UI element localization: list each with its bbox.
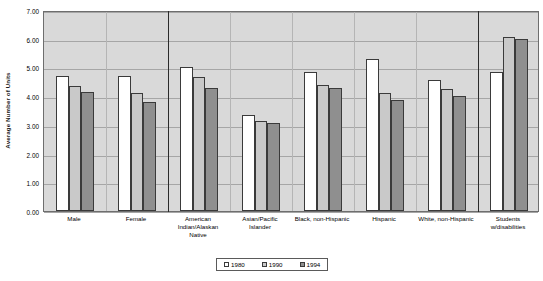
x-axis-category-label: Asian/PacificIslander [229, 215, 291, 231]
section-divider [478, 11, 479, 212]
y-axis-tick-label: 6.00 [27, 36, 39, 43]
bar [304, 72, 317, 211]
legend: 198019901994 [216, 258, 328, 271]
bar [118, 76, 131, 211]
bar [242, 115, 255, 211]
bar [143, 102, 156, 211]
bar [69, 86, 82, 211]
gridline [44, 212, 538, 213]
bar-group [478, 12, 540, 211]
x-axis-category-label-line: Islander [229, 223, 291, 231]
y-axis-tick-label: 7.00 [27, 8, 39, 15]
bar-group [168, 12, 230, 211]
bar [267, 123, 280, 211]
x-axis-category-label-line: White, non-Hispanic [415, 215, 477, 223]
x-axis-category-label: Male [43, 215, 105, 223]
bar [515, 39, 528, 211]
bar [180, 67, 193, 211]
legend-item: 1990 [262, 261, 283, 268]
legend-swatch-icon [262, 262, 267, 267]
x-axis-category-label-line: Asian/Pacific [229, 215, 291, 223]
x-axis-category-label: Studentsw/disabilities [477, 215, 539, 231]
bar [428, 80, 441, 211]
y-axis-tick-label: 5.00 [27, 65, 39, 72]
x-axis-category-label-line: Male [43, 215, 105, 223]
bar-chart: Average Number of Units 0.001.002.003.00… [0, 0, 543, 281]
legend-item-label: 1994 [307, 261, 321, 268]
section-divider [168, 11, 169, 212]
bar [366, 59, 379, 211]
x-axis-category-label-line: American [167, 215, 229, 223]
bar [379, 93, 392, 211]
y-axis-tick-label: 0.00 [27, 209, 39, 216]
y-axis-title-text: Average Number of Units [4, 72, 11, 148]
x-axis-category-label-line: Native [167, 231, 229, 239]
x-axis-category-label: Black, non-Hispanic [291, 215, 353, 223]
y-axis-tick-labels: 0.001.002.003.004.005.006.007.00 [14, 11, 42, 212]
bar [453, 96, 466, 211]
x-axis-category-label-line: Female [105, 215, 167, 223]
bar-group [416, 12, 478, 211]
bar [131, 93, 144, 211]
bar [490, 72, 503, 211]
y-axis-title: Average Number of Units [0, 0, 14, 220]
x-axis-category-label: AmericanIndian/AlaskanNative [167, 215, 229, 240]
x-axis-category-labels: MaleFemaleAmericanIndian/AlaskanNativeAs… [43, 215, 539, 260]
bar [81, 92, 94, 211]
bar [205, 88, 218, 211]
bar [56, 76, 69, 211]
x-axis-category-label: White, non-Hispanic [415, 215, 477, 223]
y-axis-tick-label: 2.00 [27, 151, 39, 158]
bar-group [230, 12, 292, 211]
x-axis-category-label: Hispanic [353, 215, 415, 223]
x-axis-category-label: Female [105, 215, 167, 223]
x-axis-category-label-line: Students [477, 215, 539, 223]
plot-area [43, 11, 539, 212]
legend-swatch-icon [300, 262, 305, 267]
legend-item: 1994 [300, 261, 321, 268]
y-axis-tick-label: 3.00 [27, 122, 39, 129]
legend-item-label: 1990 [269, 261, 283, 268]
bar [317, 85, 330, 211]
legend-item-label: 1980 [231, 261, 245, 268]
bar-group [106, 12, 168, 211]
x-axis-category-label-line: w/disabilities [477, 223, 539, 231]
legend-item: 1980 [224, 261, 245, 268]
y-axis-tick-label: 4.00 [27, 94, 39, 101]
bar-group [292, 12, 354, 211]
bar [329, 88, 342, 211]
x-axis-category-label-line: Hispanic [353, 215, 415, 223]
bar [255, 121, 268, 211]
bar [503, 37, 516, 211]
bar [441, 89, 454, 211]
legend-swatch-icon [224, 262, 229, 267]
x-axis-category-label-line: Black, non-Hispanic [291, 215, 353, 223]
bar [193, 77, 206, 211]
bar [391, 100, 404, 211]
x-axis-category-label-line: Indian/Alaskan [167, 223, 229, 231]
bar-group [44, 12, 106, 211]
bars-layer [44, 12, 538, 211]
bar-group [354, 12, 416, 211]
y-axis-tick-label: 1.00 [27, 180, 39, 187]
